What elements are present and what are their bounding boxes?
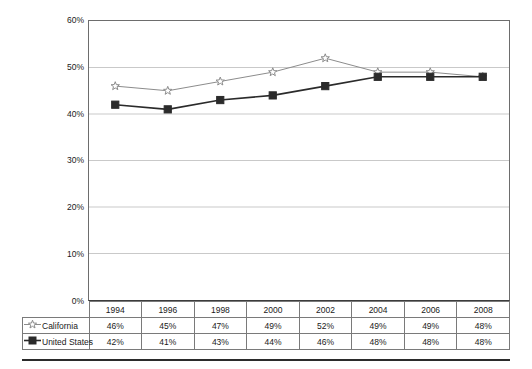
table-cell: 49% [352, 318, 405, 334]
table-cell: 49% [404, 318, 457, 334]
table-col-header: 1994 [89, 302, 142, 318]
table-cell: 48% [457, 334, 510, 350]
legend-item-united-states: United States [23, 334, 90, 350]
table-cell: 46% [299, 334, 352, 350]
table-cell: 48% [457, 318, 510, 334]
table-corner [23, 302, 90, 318]
table-cell: 48% [352, 334, 405, 350]
y-tick-label: 50% [40, 63, 84, 72]
y-tick-label: 10% [40, 250, 84, 259]
table-cell: 44% [247, 334, 300, 350]
chart-figure: 60% 50% 40% 30% 20% 10% 0% 1994 1996 199… [0, 0, 532, 369]
y-axis: 60% 50% 40% 30% 20% 10% 0% [38, 0, 84, 310]
table-cell: 47% [194, 318, 247, 334]
plot-area [88, 20, 510, 301]
series-label: California [42, 321, 78, 331]
table-col-header: 2008 [457, 302, 510, 318]
table-col-header: 2006 [404, 302, 457, 318]
footer-rule [22, 359, 510, 361]
table-col-header: 1996 [142, 302, 195, 318]
filled-square-marker-icon [24, 335, 41, 346]
series-layer [89, 21, 509, 300]
table-col-header: 2002 [299, 302, 352, 318]
table-cell: 48% [404, 334, 457, 350]
table-cell: 52% [299, 318, 352, 334]
table-cell: 45% [142, 318, 195, 334]
legend-item-california: California [23, 318, 90, 334]
table-cell: 42% [89, 334, 142, 350]
table-row: United States 42% 41% 43% 44% 46% 48% 48… [23, 334, 510, 350]
table-col-header: 1998 [194, 302, 247, 318]
y-tick-label: 60% [40, 16, 84, 25]
y-tick-label: 40% [40, 110, 84, 119]
table-row: California 46% 45% 47% 49% 52% 49% 49% 4… [23, 318, 510, 334]
series-label: United States [42, 337, 93, 347]
table-cell: 49% [247, 318, 300, 334]
y-tick-label: 20% [40, 203, 84, 212]
open-star-marker-icon [24, 319, 41, 330]
data-table: 1994 1996 1998 2000 2002 2004 2006 2008 … [22, 301, 510, 350]
table-cell: 41% [142, 334, 195, 350]
line-chart: 60% 50% 40% 30% 20% 10% 0% [0, 0, 532, 310]
table-cell: 43% [194, 334, 247, 350]
y-tick-label: 30% [40, 156, 84, 165]
table-cell: 46% [89, 318, 142, 334]
table-col-header: 2004 [352, 302, 405, 318]
table-col-header: 2000 [247, 302, 300, 318]
table-header-row: 1994 1996 1998 2000 2002 2004 2006 2008 [23, 302, 510, 318]
